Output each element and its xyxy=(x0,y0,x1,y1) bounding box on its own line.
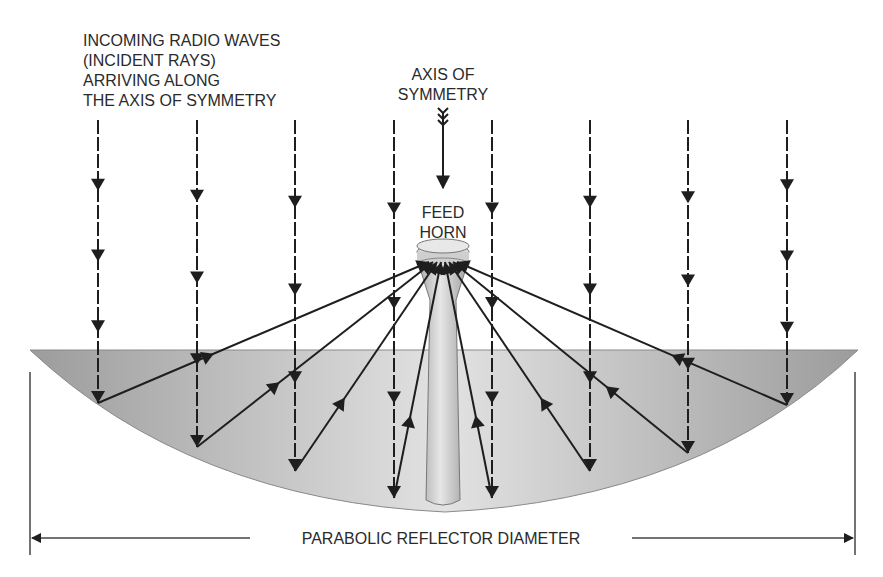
incident-ray-arrowhead xyxy=(780,251,794,263)
incident-ray-arrowhead xyxy=(288,196,302,208)
incoming-label-line4: THE AXIS OF SYMMETRY xyxy=(83,92,277,109)
axis-of-symmetry-arrow xyxy=(438,108,448,188)
incident-ray-arrowhead xyxy=(780,322,794,334)
incident-ray-arrowhead xyxy=(681,191,695,203)
incident-ray-arrowhead xyxy=(91,179,105,191)
incident-ray-arrowhead xyxy=(91,250,105,262)
incident-ray-arrowhead xyxy=(780,179,794,191)
incoming-label-line3: ARRIVING ALONG xyxy=(83,72,220,89)
feed-label-line1: FEED xyxy=(422,204,465,221)
incident-ray-arrowhead xyxy=(91,320,105,332)
axis-label-line2: SYMMETRY xyxy=(398,86,489,103)
incident-ray-arrowhead xyxy=(485,203,499,215)
incident-ray-arrowhead xyxy=(288,284,302,296)
diameter-label: PARABOLIC REFLECTOR DIAMETER xyxy=(302,530,581,547)
incident-ray-arrowhead xyxy=(583,284,597,296)
incoming-label-line2: (INCIDENT RAYS) xyxy=(83,52,216,69)
axis-label-line1: AXIS OF xyxy=(411,66,474,83)
incident-ray-arrowhead xyxy=(681,275,695,287)
parabolic-reflector-diagram: INCOMING RADIO WAVES (INCIDENT RAYS) ARR… xyxy=(0,0,883,577)
feed-label-line2: HORN xyxy=(419,224,466,241)
incident-ray-arrowhead xyxy=(190,272,204,284)
incoming-label-line1: INCOMING RADIO WAVES xyxy=(83,32,280,49)
incident-ray-arrowhead xyxy=(387,203,401,215)
incident-ray-arrowhead xyxy=(583,196,597,208)
incident-ray-arrowhead xyxy=(387,297,401,309)
incident-ray-arrowhead xyxy=(190,190,204,202)
